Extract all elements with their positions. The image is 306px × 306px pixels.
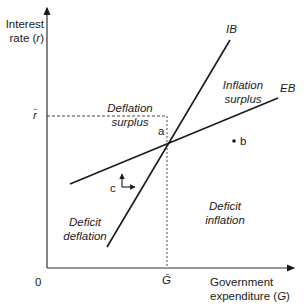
point-a-label: a [158,124,164,138]
region-deficit-inflation: Deficit inflation [201,199,249,227]
diagram-canvas [0,0,306,306]
point-b-label: b [240,134,246,148]
point-c-label: c [110,181,116,195]
y-axis-label: Interest rate (r) [4,17,44,45]
g-bar-label: Ḡ [162,273,171,287]
eb-label: EB [280,81,295,95]
r-bar-label: r̄ [33,108,37,122]
x-axis-label-line2: expenditure (G) [210,289,290,303]
point-b-dot [232,139,236,143]
x-axis-label-line1: Government [210,275,290,289]
origin-label: 0 [35,275,41,289]
y-axis-label-line2: rate (r) [4,31,44,45]
region-inflation-surplus: Inflation surplus [218,78,268,106]
x-axis-label: Government expenditure (G) [210,275,290,303]
region-deflation-surplus: Deflation surplus [102,101,158,129]
ib-label: IB [226,22,237,36]
region-deficit-deflation: Deficit deflation [61,215,109,243]
y-axis-label-line1: Interest [4,17,44,31]
